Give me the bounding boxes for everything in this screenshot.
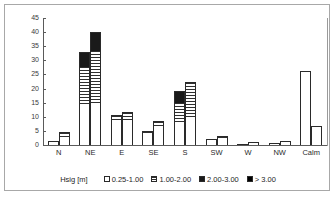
chart-legend: Hsig [m] 0.25-1.001.00-2.002.00-3.00> 3.… xyxy=(9,171,335,187)
legend-item[interactable]: 0.25-1.00 xyxy=(104,175,144,184)
bar-group xyxy=(111,18,133,145)
legend-swatch xyxy=(151,176,157,182)
bar[interactable] xyxy=(142,131,153,145)
bar[interactable] xyxy=(217,136,228,145)
bar-group xyxy=(206,18,228,145)
y-axis-tick-mark xyxy=(43,46,46,47)
bar-segment xyxy=(79,52,90,68)
y-axis-tick-mark xyxy=(43,60,46,61)
bar-segment xyxy=(48,142,59,146)
bar-group xyxy=(142,18,164,145)
bar-segment xyxy=(237,144,248,145)
y-axis-tick-label: 45 xyxy=(13,14,39,21)
bar[interactable] xyxy=(79,52,90,145)
y-axis-tick-label: 25 xyxy=(13,70,39,77)
bar[interactable] xyxy=(237,144,248,145)
bar-group xyxy=(237,18,259,145)
y-axis-tick-label: 0 xyxy=(13,141,39,148)
legend-label: 2.00-3.00 xyxy=(207,175,239,184)
bar-segment xyxy=(142,134,153,145)
bar-segment xyxy=(217,138,228,145)
bar-segment xyxy=(90,32,101,51)
bar[interactable] xyxy=(280,141,291,145)
legend-label: > 3.00 xyxy=(255,175,276,184)
bar-segment xyxy=(269,144,280,145)
bar[interactable] xyxy=(300,71,311,145)
legend-item[interactable]: 2.00-3.00 xyxy=(199,175,239,184)
y-axis-tick-mark xyxy=(43,131,46,132)
y-axis-tick-mark xyxy=(43,145,46,146)
legend-items: 0.25-1.001.00-2.002.00-3.00> 3.00 xyxy=(104,175,284,184)
legend-label: 0.25-1.00 xyxy=(112,175,144,184)
bar-segment xyxy=(248,143,259,145)
bar-segment xyxy=(59,138,70,145)
bar-segment xyxy=(79,67,90,104)
bar-segment xyxy=(111,121,122,145)
y-axis-tick-mark xyxy=(43,117,46,118)
x-axis-line xyxy=(43,145,328,146)
legend-item[interactable]: > 3.00 xyxy=(247,175,276,184)
legend-title: Hsig [m] xyxy=(60,175,88,184)
bar[interactable] xyxy=(206,139,217,145)
bar[interactable] xyxy=(153,121,164,145)
bar-segment xyxy=(206,140,217,145)
bar[interactable] xyxy=(185,82,196,146)
y-axis-tick-mark xyxy=(43,89,46,90)
bar-segment xyxy=(185,83,196,119)
legend-item[interactable]: 1.00-2.00 xyxy=(151,175,191,184)
bar-segment xyxy=(311,126,322,145)
bar[interactable] xyxy=(48,141,59,146)
bar-segment xyxy=(280,142,291,145)
bar-segment xyxy=(90,103,101,145)
bar-segment xyxy=(174,91,185,104)
legend-label: 1.00-2.00 xyxy=(159,175,191,184)
bar[interactable] xyxy=(90,32,101,145)
bar[interactable] xyxy=(59,132,70,145)
bar[interactable] xyxy=(122,112,133,145)
y-axis-tick-label: 20 xyxy=(13,85,39,92)
y-axis-tick-mark xyxy=(43,103,46,104)
y-axis-tick-label: 30 xyxy=(13,56,39,63)
bar-segment xyxy=(122,122,133,145)
bar-group xyxy=(48,18,70,145)
y-axis-tick-mark xyxy=(43,32,46,33)
bar-group xyxy=(269,18,291,145)
y-axis-tick-label: 35 xyxy=(13,42,39,49)
bar-segment xyxy=(174,103,185,124)
bar-segment xyxy=(153,128,164,145)
bar[interactable] xyxy=(174,91,185,145)
bar-group xyxy=(174,18,196,145)
bar-segment xyxy=(174,124,185,145)
legend-swatch xyxy=(104,176,110,182)
bar[interactable] xyxy=(248,142,259,145)
bar[interactable] xyxy=(269,143,280,145)
y-axis-tick-mark xyxy=(43,18,46,19)
y-axis-line xyxy=(43,18,44,146)
bar-segment xyxy=(185,119,196,145)
bar-segment xyxy=(122,113,133,122)
y-axis-tick-label: 40 xyxy=(13,28,39,35)
bar[interactable] xyxy=(111,115,122,145)
bar-group xyxy=(79,18,101,145)
y-axis-tick-label: 10 xyxy=(13,113,39,120)
y-axis-tick-mark xyxy=(43,74,46,75)
bar-group xyxy=(300,18,322,145)
y-axis-tick-label: 5 xyxy=(13,127,39,134)
y-axis-tick-labels: 051015202530354045 xyxy=(9,5,39,197)
legend-swatch xyxy=(199,176,205,182)
chart-frame: 051015202530354045 NNEESESSWWNWCalm Hsig… xyxy=(4,4,330,191)
y-axis-tick-label: 15 xyxy=(13,99,39,106)
plot-right-edge xyxy=(327,18,328,146)
bar[interactable] xyxy=(311,126,322,145)
bar-segment xyxy=(79,105,90,145)
bar-segment xyxy=(300,71,311,145)
x-axis-category-label: Calm xyxy=(291,148,331,157)
bar-segment xyxy=(90,51,101,103)
legend-swatch xyxy=(247,176,253,182)
